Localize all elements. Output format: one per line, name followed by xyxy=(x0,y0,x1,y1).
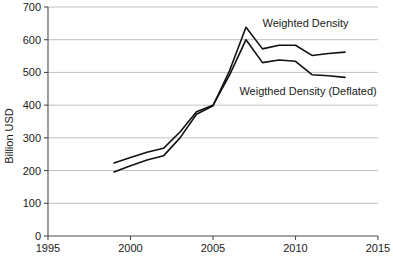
y-tick-label-0: 0 xyxy=(35,230,41,242)
y-tick-label-300: 300 xyxy=(23,132,41,144)
chart-background xyxy=(0,0,393,261)
weighted-density-deflated-label: Weigthed Density (Deflated) xyxy=(239,85,376,97)
y-tick-label-200: 200 xyxy=(23,165,41,177)
y-tick-label-500: 500 xyxy=(23,66,41,78)
x-tick-label-2000: 2000 xyxy=(118,242,142,254)
y-tick-label-400: 400 xyxy=(23,99,41,111)
y-tick-label-700: 700 xyxy=(23,1,41,13)
line-chart: 0100200300400500600700 19952000200520102… xyxy=(0,0,393,261)
x-tick-label-2005: 2005 xyxy=(201,242,225,254)
chart-container: 0100200300400500600700 19952000200520102… xyxy=(0,0,393,261)
x-tick-label-2010: 2010 xyxy=(283,242,307,254)
y-axis-title: Billion USD xyxy=(3,108,15,164)
y-tick-label-600: 600 xyxy=(23,34,41,46)
x-tick-label-1995: 1995 xyxy=(36,242,60,254)
weighted-density-label: Weighted Density xyxy=(263,17,350,29)
x-tick-label-2015: 2015 xyxy=(366,242,390,254)
y-tick-label-100: 100 xyxy=(23,197,41,209)
